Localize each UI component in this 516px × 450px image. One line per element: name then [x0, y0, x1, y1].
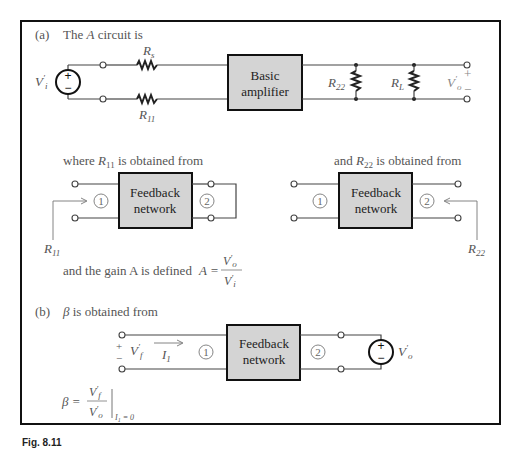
voltage-source-vi: + −	[56, 65, 80, 99]
port2-short	[214, 184, 236, 218]
beta-denominator: V′o	[89, 404, 103, 420]
beta-lhs: β =	[61, 394, 81, 409]
r11-label: R11	[138, 107, 155, 124]
feedback-analysis-diagram: (a) The A circuit is + − V′i Rs R11 Basi…	[0, 0, 516, 450]
input-terminal-bottom	[100, 96, 106, 102]
vo-plus: +	[464, 66, 471, 81]
basic-amplifier-label-2: amplifier	[241, 84, 289, 99]
resistor-rs	[137, 61, 157, 69]
part-a-heading: The A circuit is	[63, 27, 143, 42]
port-2-label: 2	[424, 195, 430, 207]
beta-condition: I1 = 0	[114, 413, 134, 423]
feedback-label-1: Feedback	[351, 185, 401, 200]
rs-label: Rs	[142, 43, 155, 60]
input-terminal-top	[100, 62, 106, 68]
part-a-label: (a)	[35, 27, 49, 42]
rl-label: RL	[390, 75, 404, 92]
port-2-label: 2	[204, 195, 210, 207]
r22-caption: and R22 is obtained from	[334, 153, 461, 170]
gain-numerator: V′o	[223, 253, 237, 269]
feedback-label-1: Feedback	[239, 336, 289, 351]
r22-label: R22	[327, 75, 345, 92]
figure-caption: Fig. 8.11	[22, 437, 62, 448]
basic-amplifier-label-1: Basic	[251, 68, 280, 83]
r22-arrow-label: R22	[467, 241, 485, 258]
feedback-label-2: network	[243, 352, 286, 367]
gain-lhs: A =	[198, 263, 219, 278]
i1-label: I1	[161, 347, 171, 364]
feedback-label-2: network	[134, 201, 177, 216]
part-b-heading: β is obtained from	[62, 304, 158, 319]
resistor-rl	[410, 71, 418, 91]
port-1-label: 1	[98, 195, 104, 207]
beta-feedback-circuit: + − V′f I1 1 Feedback network 2 + − V′o	[116, 325, 413, 380]
vf-minus: −	[116, 352, 122, 364]
resistor-r22	[352, 71, 360, 91]
resistor-r11	[137, 95, 157, 103]
vo-minus: −	[464, 82, 471, 97]
r11-arrow-label: R11	[43, 241, 60, 258]
part-b-label: (b)	[35, 304, 50, 319]
vf-label: V′f	[130, 342, 144, 360]
port-2-label: 2	[315, 346, 321, 358]
vo-label: V′o	[447, 74, 462, 92]
vo-source-minus: −	[377, 351, 384, 365]
r11-feedback-circuit: Feedback network 1 2 R11	[43, 173, 236, 258]
r11-caption: where R11 is obtained from	[63, 153, 203, 170]
source-minus: −	[64, 81, 71, 95]
gain-text: and the gain A is defined	[63, 263, 192, 278]
port-1-label: 1	[203, 346, 209, 358]
beta-numerator: V′f	[89, 384, 102, 400]
vf-plus: +	[116, 340, 122, 352]
source-vi-label: V′i	[35, 73, 48, 91]
port-1-label: 1	[317, 195, 323, 207]
feedback-label-2: network	[355, 201, 398, 216]
r22-feedback-circuit: Feedback network 1 2 R22	[291, 173, 485, 258]
vo-source-label: V′o	[398, 343, 413, 361]
feedback-label-1: Feedback	[130, 185, 180, 200]
gain-denominator: V′i	[224, 273, 236, 289]
